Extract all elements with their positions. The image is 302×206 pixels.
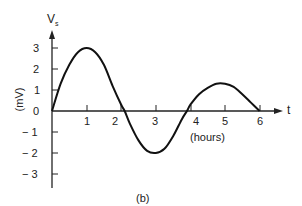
- y-tick-label: − 3: [22, 169, 38, 180]
- y-axis-symbol: Vs: [47, 14, 59, 29]
- y-tick-label: − 2: [22, 148, 38, 159]
- x-axis-label: (hours): [190, 132, 225, 143]
- x-tick-label: 2: [112, 116, 118, 127]
- x-tick-label: 1: [84, 116, 90, 127]
- y-tick-label: 1: [34, 85, 40, 96]
- y-tick-label: 2: [33, 64, 39, 75]
- x-tick-label: 6: [257, 116, 263, 127]
- vs-curve: [52, 48, 260, 153]
- x-tick-label: 3: [152, 116, 158, 127]
- y-tick-label: 3: [33, 43, 39, 54]
- y-tick-label: − 1: [22, 127, 38, 138]
- x-tick-label: 5: [222, 116, 228, 127]
- x-axis-arrow-icon: [274, 108, 283, 114]
- y-axis-arrow-icon: [49, 30, 55, 39]
- chart: Vs 3 2 1 0 − 1 − 2 − 3 (mV) 1 2 3 4 5 6 …: [0, 0, 302, 206]
- x-tick-label: 4: [193, 116, 199, 127]
- chart-plot: [0, 0, 302, 206]
- x-axis-symbol: t: [287, 105, 290, 116]
- figure-caption: (b): [136, 193, 149, 204]
- y-axis-label: (mV): [14, 88, 25, 112]
- x-ticks: [87, 105, 260, 111]
- y-tick-label: 0: [33, 106, 39, 117]
